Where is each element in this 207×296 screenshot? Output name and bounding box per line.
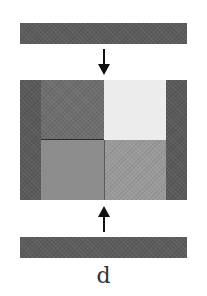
top-bar xyxy=(20,23,187,44)
arrow-down-icon xyxy=(96,49,112,76)
central-block xyxy=(20,80,187,200)
left-strip xyxy=(20,80,41,200)
bottom-bar xyxy=(20,237,187,258)
vertical-divider xyxy=(104,140,105,200)
quadrant-bottom-left xyxy=(41,140,104,200)
quadrant-top-left xyxy=(41,80,104,140)
panel-label: d xyxy=(0,263,207,289)
quadrant-bottom-right xyxy=(104,140,166,200)
horizontal-divider xyxy=(41,139,104,140)
right-strip xyxy=(166,80,187,200)
arrow-up-icon xyxy=(96,206,112,233)
quadrant-top-right xyxy=(104,80,166,140)
